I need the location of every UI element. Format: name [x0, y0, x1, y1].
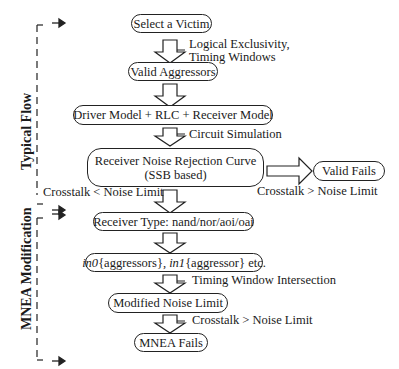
crosstalk-gt-right-label: Crosstalk > Noise Limit: [257, 185, 378, 198]
models-node: Driver Model + RLC + Receiver Model: [73, 105, 273, 125]
rejection-curve-node: Receiver Noise Rejection Curve (SSB base…: [87, 148, 264, 187]
pin-mapping-node: in0{aggressors}, in1{aggressor} etc.: [85, 253, 263, 272]
rejection-curve-title: Receiver Noise Rejection Curve: [95, 154, 256, 168]
down-arrow-icon: [155, 128, 185, 146]
receiver-type-node: Receiver Type: nand/nor/aoi/oai: [93, 212, 254, 231]
down-arrow-icon: [155, 233, 185, 253]
typical-flow-label: Typical Flow: [19, 93, 35, 170]
valid-aggressors-node: Valid Aggressors: [128, 62, 218, 81]
pin-in0: in0: [82, 256, 98, 270]
right-arrow-icon: [267, 158, 312, 184]
timing-window-intersection-label: Timing Window Intersection: [192, 274, 336, 287]
modified-noise-limit-node: Modified Noise Limit: [108, 293, 228, 313]
down-arrow-icon: [155, 275, 185, 293]
timing-windows-label: Timing Windows: [189, 51, 276, 64]
pin-aggressor-etc: {aggressor} etc.: [185, 256, 266, 270]
mnea-modification-label: MNEA Modification: [19, 208, 35, 331]
circuit-simulation-label: Circuit Simulation: [189, 128, 282, 141]
pin-aggressors: {aggressors},: [98, 256, 169, 270]
rejection-curve-subtitle: (SSB based): [144, 168, 206, 182]
crosstalk-gt-bottom-label: Crosstalk > Noise Limit: [192, 314, 313, 327]
mnea-fails-node: MNEA Fails: [134, 333, 208, 352]
down-arrow-icon: [155, 315, 185, 333]
pin-in1: in1: [169, 256, 185, 270]
down-arrow-icon: [155, 84, 185, 107]
crosstalk-lt-label: Crosstalk < Noise Limit: [43, 186, 164, 199]
down-arrow-icon: [155, 40, 185, 63]
valid-fails-node: Valid Fails: [313, 161, 385, 181]
select-victim-node: Select a Victim: [131, 14, 212, 33]
